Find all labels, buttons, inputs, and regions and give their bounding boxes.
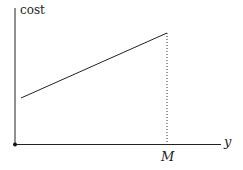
x-axis-label: y	[224, 134, 231, 149]
m-tick-label: M	[161, 149, 174, 164]
origin-dot	[13, 143, 17, 147]
cost-line	[21, 33, 167, 98]
chart-svg	[0, 0, 243, 170]
y-axis-label: cost	[20, 3, 45, 17]
chart-container: cost y M	[0, 0, 243, 170]
